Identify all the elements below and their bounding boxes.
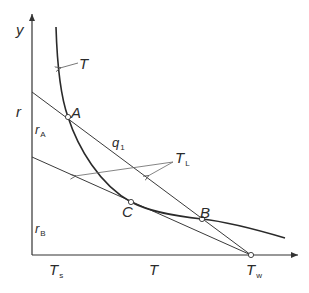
curve-t bbox=[56, 27, 285, 238]
ra-sub: A bbox=[40, 130, 45, 139]
tl-sub: L bbox=[185, 159, 189, 168]
q1-sub: 1 bbox=[120, 143, 124, 152]
tl-main: T bbox=[175, 149, 184, 166]
ts-sub: s bbox=[59, 271, 63, 280]
point-a bbox=[65, 114, 70, 119]
q1-label: q1 bbox=[112, 136, 125, 152]
y-axis-label: y bbox=[16, 22, 24, 37]
ts-label: Ts bbox=[49, 262, 63, 280]
rb-main: r bbox=[35, 221, 39, 236]
point-c-label: C bbox=[122, 204, 133, 219]
tw-label: Tw bbox=[246, 262, 262, 280]
q1-main: q bbox=[112, 135, 119, 150]
line-q1 bbox=[32, 92, 251, 255]
rb-sub: B bbox=[40, 229, 45, 238]
r-label: r bbox=[16, 104, 21, 119]
point-b-label: B bbox=[200, 205, 210, 220]
ra-main: r bbox=[35, 122, 39, 137]
ra-label: rA bbox=[35, 123, 46, 139]
pointer-tl-1 bbox=[75, 162, 173, 176]
x-axis-label: T bbox=[149, 262, 158, 277]
point-tw bbox=[248, 252, 253, 257]
rb-label: rB bbox=[35, 222, 46, 238]
ts-main: T bbox=[49, 261, 58, 278]
tl-label: TL bbox=[175, 150, 190, 168]
diagram-canvas: y T r rA A q1 TL C B rB Ts T Tw bbox=[0, 0, 309, 293]
tw-sub: w bbox=[256, 271, 262, 280]
point-a-label: A bbox=[71, 105, 81, 120]
pointer-t bbox=[60, 63, 78, 68]
tw-main: T bbox=[246, 261, 255, 278]
diagram-svg bbox=[0, 0, 309, 293]
curve-t-label: T bbox=[79, 56, 88, 71]
